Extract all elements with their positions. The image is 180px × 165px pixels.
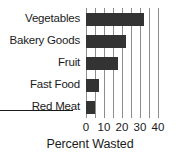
category-label-bakery-goods: Bakery Goods	[0, 30, 83, 52]
bar-row	[86, 96, 158, 118]
x-tick-label-10: 10	[98, 120, 111, 134]
x-tick-label-20: 20	[116, 120, 129, 134]
bar-vegetables	[86, 13, 144, 26]
bar-bakery-goods	[86, 35, 126, 48]
gridline-40	[158, 8, 159, 118]
x-axis-title: Percent Wasted	[0, 138, 180, 151]
bar-row	[86, 30, 158, 52]
bar-row	[86, 8, 158, 30]
bar-row	[86, 52, 158, 74]
bar-series	[86, 8, 158, 118]
bar-chart: Vegetables Bakery Goods Fruit Fast Food …	[0, 0, 180, 165]
bar-red-meat	[86, 101, 95, 114]
x-axis-line	[0, 110, 73, 111]
x-axis-tick-labels: 010203040	[86, 120, 158, 134]
category-axis-labels: Vegetables Bakery Goods Fruit Fast Food …	[0, 8, 83, 118]
x-tick-label-0: 0	[83, 120, 89, 134]
bar-fruit	[86, 57, 118, 70]
category-label-red-meat: Red Meat	[0, 96, 83, 118]
category-label-fruit: Fruit	[0, 52, 83, 74]
category-label-fast-food: Fast Food	[0, 74, 83, 96]
plot-area	[86, 8, 158, 118]
bar-row	[86, 74, 158, 96]
x-tick-label-30: 30	[134, 120, 147, 134]
bar-fast-food	[86, 79, 99, 92]
category-label-vegetables: Vegetables	[0, 8, 83, 30]
x-tick-label-40: 40	[152, 120, 165, 134]
